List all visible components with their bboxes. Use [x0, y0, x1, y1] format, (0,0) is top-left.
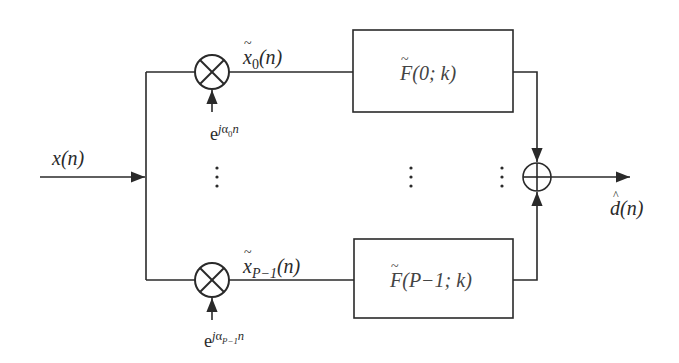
input-label: x(n)	[52, 148, 84, 168]
filter-label-0: F(0; k)	[400, 63, 456, 83]
signal-label-p-1: xP−1(n)	[243, 256, 300, 281]
diagram-wires	[0, 0, 679, 363]
modulator-label-p-1: ejαP−1n	[204, 330, 244, 350]
multiplier-p-1	[195, 263, 229, 297]
ellipsis-dots	[215, 166, 503, 187]
output-label: d(n)	[610, 198, 643, 218]
filter-label-p-1: F(P−1; k)	[390, 270, 472, 290]
multiplier-0	[195, 55, 229, 89]
modulator-label-0: ejα0n	[210, 123, 239, 143]
signal-label-0: x0(n)	[243, 47, 282, 72]
summer	[523, 163, 551, 191]
block-diagram: x(n) x0(n) ejα0n F(0; k) xP−1(n) ejαP−1n…	[0, 0, 679, 363]
